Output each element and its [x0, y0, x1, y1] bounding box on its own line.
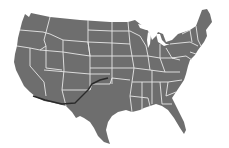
us-landmass	[14, 9, 212, 144]
us-map	[0, 0, 229, 148]
